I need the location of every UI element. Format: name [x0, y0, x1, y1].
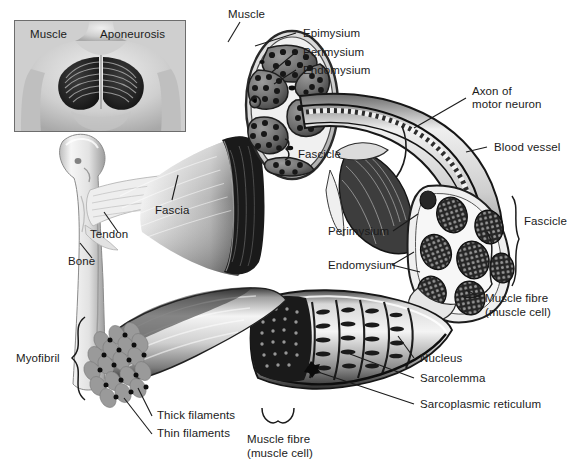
label-thin-filaments: Thin filaments	[157, 427, 230, 440]
inset-label-aponeurosis: Aponeurosis	[100, 28, 165, 41]
label-tendon: Tendon	[90, 228, 128, 241]
label-fascia: Fascia	[155, 204, 189, 217]
label-axon-line2: motor neuron	[472, 98, 542, 111]
label-epimysium: Epimysium	[303, 27, 360, 40]
label-fascicle-left: Fascicle	[298, 148, 341, 161]
label-blood-vessel: Blood vessel	[494, 141, 560, 154]
inset-label-muscle: Muscle	[30, 28, 67, 41]
muscle-belly-illustration	[120, 136, 265, 276]
label-endomysium-top: Endomysium	[303, 64, 370, 77]
label-perimysium-mid: Perimysium	[328, 225, 389, 238]
label-myofibril: Myofibril	[16, 352, 60, 365]
label-muscle-top: Muscle	[228, 8, 265, 21]
leader-muscle-top	[228, 22, 240, 42]
label-muscle-fibre-bottom-line1: Muscle fibre	[247, 433, 310, 446]
label-thick-filaments: Thick filaments	[157, 409, 235, 422]
label-bone: Bone	[68, 255, 95, 268]
label-axon-line1: Axon of	[472, 85, 512, 98]
leader-thin-filaments	[124, 398, 152, 434]
label-muscle-fibre-right-line2: (muscle cell)	[485, 306, 551, 319]
label-sarcolemma: Sarcolemma	[420, 372, 486, 385]
label-muscle-fibre-bottom-line2: (muscle cell)	[247, 447, 313, 460]
muscle-anatomy-diagram: Muscle Aponeurosis Muscle Epimysium Peri…	[0, 0, 570, 466]
label-sarcoplasmic-reticulum: Sarcoplasmic reticulum	[420, 398, 541, 411]
label-endomysium-mid: Endomysium	[328, 259, 395, 272]
label-nucleus: Nucleus	[420, 352, 462, 365]
label-muscle-fibre-right-line1: Muscle fibre	[485, 292, 548, 305]
label-fascicle-right: Fascicle	[524, 215, 567, 228]
label-perimysium-top: Perimysium	[303, 46, 364, 59]
brace-muscle-fibre-bottom	[262, 408, 294, 423]
